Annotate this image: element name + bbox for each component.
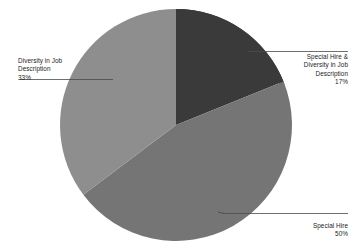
callout-label-special-hire: Special Hire — [313, 222, 348, 229]
callout-label-diversity: Diversity in Job Description — [18, 57, 62, 73]
callout-special-hire: Special Hire 50% — [252, 213, 352, 246]
callout-diversity-in-job-description: Diversity in Job Description 33% — [18, 48, 110, 91]
pie-chart-figure: Diversity in Job Description 33% Special… — [0, 0, 352, 246]
pie-chart-graphic — [0, 0, 352, 246]
callout-label-special-hire-and-diversity: Special Hire & Diversity in Job Descript… — [304, 53, 348, 77]
callout-percent-special-hire-and-diversity: 17% — [252, 78, 348, 87]
callout-special-hire-and-diversity: Special Hire & Diversity in Job Descript… — [252, 44, 352, 96]
callout-percent-diversity: 33% — [18, 74, 110, 83]
callout-percent-special-hire: 50% — [252, 230, 348, 239]
